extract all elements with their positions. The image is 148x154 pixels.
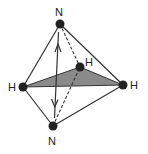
bond-ntop-hmiddle xyxy=(60,24,80,67)
label-n-top: N xyxy=(55,6,63,18)
atom-h-middle xyxy=(76,63,85,72)
bond-nbottom-hleft xyxy=(23,87,53,126)
atom-h-right xyxy=(119,81,128,90)
label-h-right: H xyxy=(130,79,138,91)
ammonia-inversion-diagram: N N H H H xyxy=(0,0,148,154)
label-n-bottom: N xyxy=(48,135,56,147)
atom-h-left xyxy=(19,83,28,92)
atom-n-bottom xyxy=(49,122,58,131)
label-h-middle: H xyxy=(85,56,93,68)
label-h-left: H xyxy=(8,81,16,93)
bond-nbottom-hright xyxy=(53,85,123,126)
atom-n-top xyxy=(56,20,65,29)
